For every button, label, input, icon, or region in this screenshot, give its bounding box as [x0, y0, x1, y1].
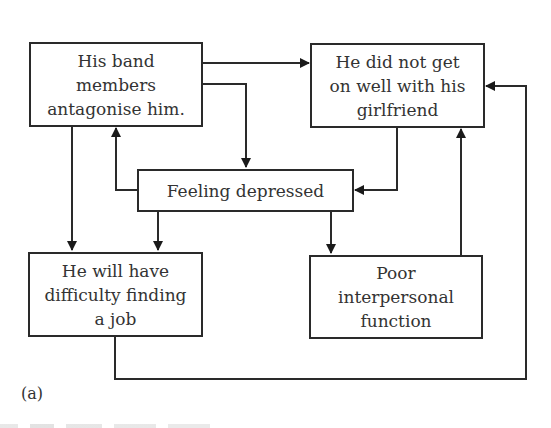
- node-band-members-antagonise: His band members antagonise him.: [29, 42, 203, 127]
- node-text-line: He did not get: [330, 50, 466, 74]
- clipped-caption-line: [0, 424, 300, 428]
- node-poor-interpersonal-function: Poor interpersonal function: [309, 255, 483, 339]
- node-text-line: He will have: [44, 259, 186, 283]
- node-text-line: Feeling depressed: [167, 179, 325, 203]
- edge-band-to-depressed: [202, 84, 246, 167]
- node-text-line: members: [47, 73, 185, 97]
- node-feeling-depressed: Feeling depressed: [137, 169, 354, 212]
- node-text-line: girlfriend: [330, 98, 466, 122]
- panel-label: (a): [21, 384, 43, 403]
- node-text-line: interpersonal: [338, 285, 454, 309]
- node-text-line: Poor: [338, 261, 454, 285]
- node-text-line: a job: [44, 307, 186, 331]
- edge-girlfriend-to-depressed: [355, 127, 397, 190]
- node-text-line: His band: [47, 49, 185, 73]
- diagram-canvas: His band members antagonise him. He did …: [0, 0, 551, 428]
- node-job-difficulty: He will have difficulty finding a job: [28, 252, 203, 337]
- node-text-line: function: [338, 309, 454, 333]
- node-text-line: difficulty finding: [44, 283, 186, 307]
- node-girlfriend-conflict: He did not get on well with his girlfrie…: [310, 43, 485, 128]
- node-text-line: antagonise him.: [47, 97, 185, 121]
- edge-depressed-to-band: [116, 128, 137, 190]
- node-text-line: on well with his: [330, 74, 466, 98]
